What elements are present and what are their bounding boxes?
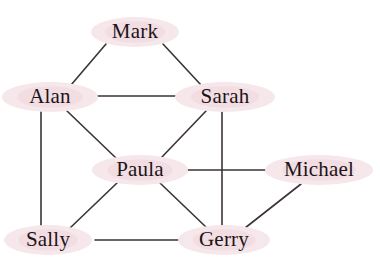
edge-michael-gerry <box>245 184 301 228</box>
edge-sarah-paula <box>161 111 206 158</box>
node-michael[interactable]: Michael <box>265 155 373 185</box>
node-gerry[interactable]: Gerry <box>178 225 270 255</box>
node-label-sally: Sally <box>26 227 70 251</box>
edge-paula-sally <box>70 183 117 228</box>
node-label-michael: Michael <box>284 157 354 181</box>
node-label-mark: Mark <box>112 19 159 43</box>
node-paula[interactable]: Paula <box>92 155 188 185</box>
social-network-diagram: MarkAlanSarahPaulaMichaelSallyGerry <box>0 0 380 280</box>
node-sally[interactable]: Sally <box>4 225 92 255</box>
node-alan[interactable]: Alan <box>2 82 98 112</box>
edge-mark-sarah <box>163 44 201 85</box>
node-label-alan: Alan <box>29 84 71 108</box>
edges-layer <box>41 44 301 240</box>
node-label-sarah: Sarah <box>201 84 250 108</box>
node-label-gerry: Gerry <box>199 227 249 251</box>
edge-paula-gerry <box>160 183 207 228</box>
node-sarah[interactable]: Sarah <box>175 82 275 112</box>
node-label-paula: Paula <box>116 157 164 181</box>
edge-alan-paula <box>67 111 116 158</box>
edge-mark-alan <box>71 44 106 85</box>
nodes-layer: MarkAlanSarahPaulaMichaelSallyGerry <box>2 17 373 255</box>
graph-canvas: MarkAlanSarahPaulaMichaelSallyGerry <box>0 0 380 280</box>
node-mark[interactable]: Mark <box>91 17 179 47</box>
